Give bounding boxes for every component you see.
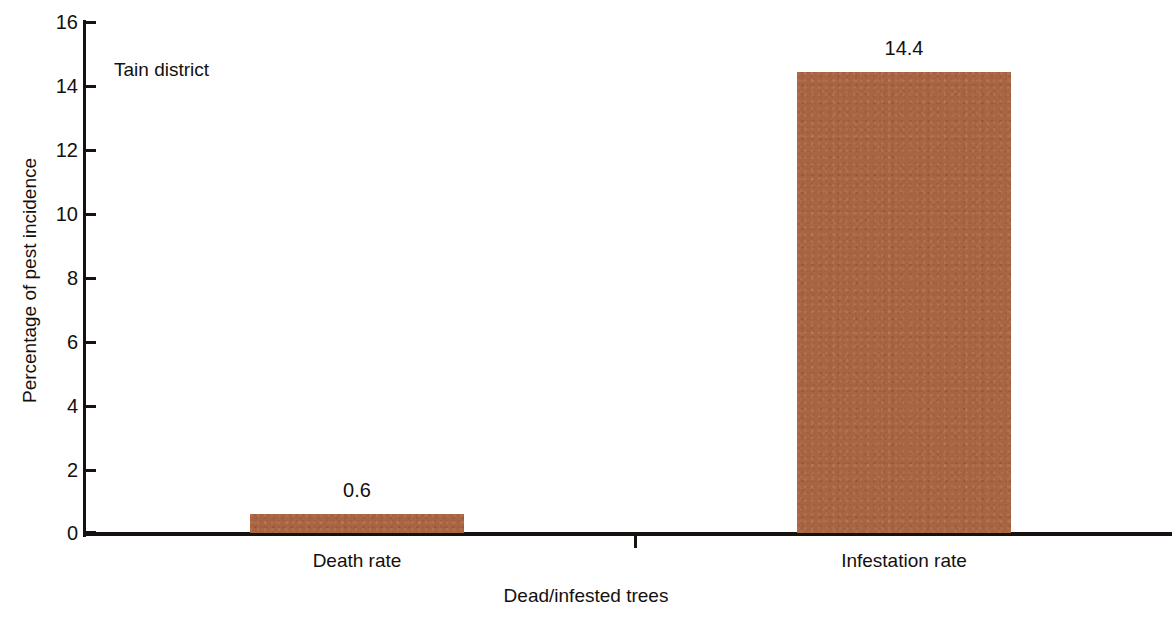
bar-value-label-infestation-rate: 14.4 <box>797 38 1011 58</box>
y-axis-tick-14 <box>86 85 96 88</box>
bar-value-label-death-rate: 0.6 <box>250 480 464 500</box>
y-axis-title: Percentage of pest incidence <box>20 41 39 521</box>
y-axis-tick-4 <box>86 405 96 408</box>
bar-infestation-rate <box>797 72 1011 533</box>
y-axis-tick-12 <box>86 149 96 152</box>
y-axis-tick-2 <box>86 469 96 472</box>
chart-annotation-district: Tain district <box>114 60 209 79</box>
x-axis-tick-label-death-rate: Death rate <box>250 551 464 570</box>
y-axis-tick-0 <box>86 531 96 534</box>
x-axis-tick-label-infestation-rate: Infestation rate <box>797 551 1011 570</box>
y-axis-tick-16 <box>86 21 96 24</box>
y-axis-tick-8 <box>86 277 96 280</box>
x-axis-title: Dead/infested trees <box>0 586 1172 605</box>
bar-death-rate <box>250 514 464 533</box>
y-axis-tick-6 <box>86 341 96 344</box>
y-axis-tick-10 <box>86 213 96 216</box>
y-axis-tick-label-16: 16 <box>18 12 78 32</box>
plot-area: 16 14 12 10 8 6 4 2 0 Tain district 0.6 … <box>0 0 1172 620</box>
y-axis-tick-label-0: 0 <box>18 523 78 543</box>
bar-chart-figure: 16 14 12 10 8 6 4 2 0 Tain district 0.6 … <box>0 0 1172 620</box>
x-axis-category-divider-tick <box>634 535 637 548</box>
